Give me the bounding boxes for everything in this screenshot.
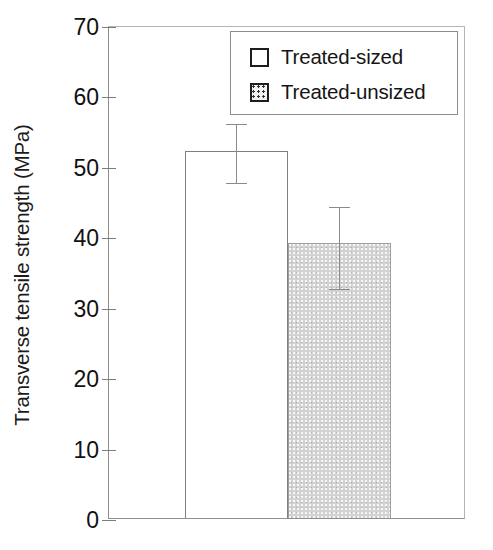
tick-mark-10	[102, 450, 116, 451]
y-tick-label-30: 30	[73, 297, 99, 320]
y-tick-label-20: 20	[73, 368, 99, 391]
y-tick-label-0: 0	[86, 509, 99, 532]
tick-mark-20	[102, 379, 116, 380]
tick-mark-0	[102, 520, 116, 521]
tick-mark-60	[102, 97, 116, 98]
legend-item-treated-sized: Treated-sized	[250, 41, 457, 74]
y-tick-label-40: 40	[73, 227, 99, 250]
y-tick-label-60: 60	[73, 86, 99, 109]
error-bar-cap-lower-treated-unsized	[329, 289, 350, 290]
y-axis-title: Transverse tensile strength (MPa)	[0, 0, 44, 550]
error-bar-stem-treated-unsized	[339, 207, 340, 289]
legend-item-treated-unsized: Treated-unsized	[250, 76, 457, 109]
y-tick-label-70: 70	[73, 16, 99, 39]
y-tick-label-10: 10	[73, 438, 99, 461]
bar-chart-figure: Transverse tensile strength (MPa) 70 60 …	[0, 0, 493, 550]
legend-label-treated-unsized: Treated-unsized	[281, 82, 425, 103]
error-bar-cap-upper-treated-sized	[226, 124, 247, 125]
tick-mark-40	[102, 238, 116, 239]
tick-mark-30	[102, 309, 116, 310]
tick-mark-50	[102, 168, 116, 169]
error-bar-cap-upper-treated-unsized	[329, 207, 350, 208]
tick-mark-70	[102, 27, 116, 28]
legend-label-treated-sized: Treated-sized	[281, 47, 403, 68]
chart-legend: Treated-sized Treated-unsized	[230, 31, 458, 115]
y-tick-label-50: 50	[73, 156, 99, 179]
bar-treated-sized	[185, 151, 288, 518]
error-bar-cap-lower-treated-sized	[226, 183, 247, 184]
legend-swatch-dotted-square-icon	[250, 83, 269, 102]
legend-swatch-open-square-icon	[250, 48, 269, 67]
error-bar-stem-treated-sized	[236, 124, 237, 183]
